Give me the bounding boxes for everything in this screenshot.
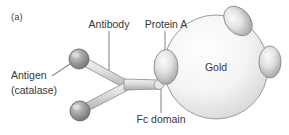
panel-label: (a) (11, 11, 23, 22)
gold-label: Gold (205, 61, 227, 73)
antigen-label-line1: Antigen (11, 69, 47, 81)
antigen-upper-highlight (72, 52, 79, 57)
protein-a-right-ellipse (259, 46, 281, 78)
figure-panel: (a) Antibody Protein A Antigen (catalase… (0, 0, 289, 135)
protein-a-left-ellipse (154, 50, 178, 85)
antigen-sphere-lower (70, 101, 90, 121)
antigen-sphere-upper (69, 49, 89, 69)
fc-domain-label: Fc domain (136, 113, 185, 125)
protein-a-label: Protein A (145, 18, 188, 30)
antibody-gold-conjugate-diagram: (a) Antibody Protein A Antigen (catalase… (0, 0, 289, 135)
antigen-label-line2: (catalase) (11, 84, 57, 96)
antigen-leader-line (52, 62, 73, 76)
antibody-label: Antibody (89, 18, 131, 30)
antigen-lower-highlight (73, 104, 80, 109)
